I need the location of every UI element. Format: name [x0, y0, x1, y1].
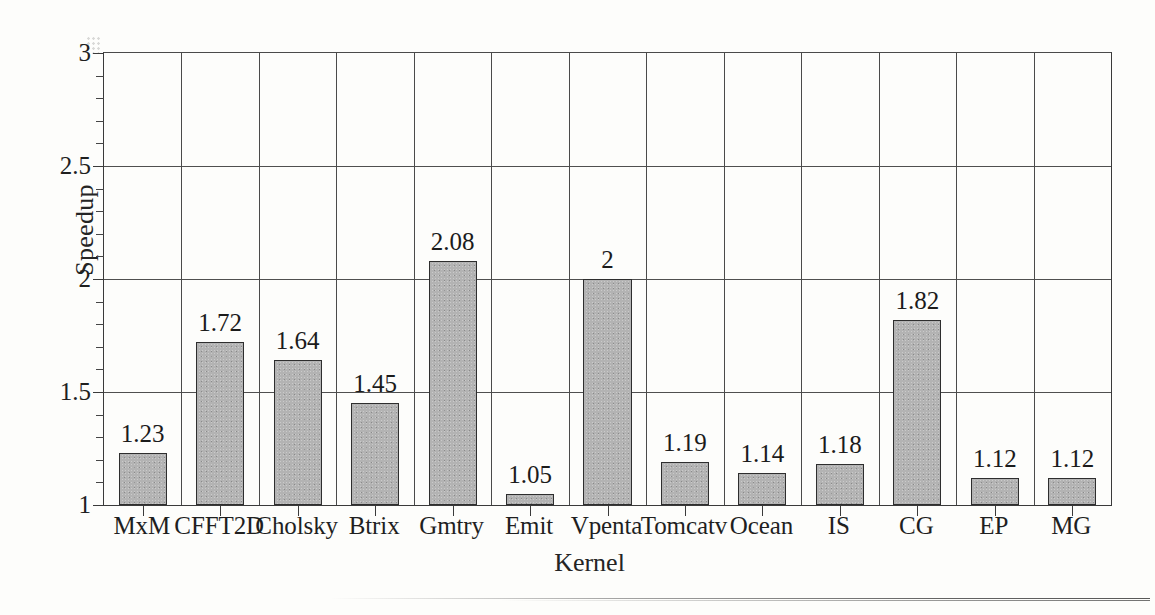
- bar: [661, 462, 709, 505]
- bar: [816, 464, 864, 505]
- y-axis-minor-tick: [96, 482, 104, 483]
- y-axis-minor-tick: [96, 324, 104, 325]
- bar-value-label: 1.64: [276, 327, 320, 355]
- y-axis-minor-tick: [96, 302, 104, 303]
- x-axis-tick-label: Ocean: [730, 512, 793, 540]
- y-axis-minor-tick: [96, 211, 104, 212]
- x-axis-title-text: Kernel: [554, 548, 625, 577]
- scan-artifact-line-secondary: [500, 600, 1150, 601]
- x-gridline: [491, 53, 492, 505]
- y-axis-minor-tick: [96, 98, 104, 99]
- y-axis-minor-tick: [96, 189, 104, 190]
- y-axis-minor-tick: [96, 415, 104, 416]
- x-axis-tick-label: Cholsky: [255, 512, 338, 540]
- bar: [351, 403, 399, 505]
- x-axis-tick-label: MG: [1051, 512, 1091, 540]
- y-axis-minor-tick: [96, 369, 104, 370]
- bar: [274, 360, 322, 505]
- bar-value-label: 1.14: [741, 440, 785, 468]
- x-axis-tick-label: Gmtry: [419, 512, 484, 540]
- plot-area: 11.522.531.231.721.641.452.081.0521.191.…: [103, 52, 1112, 506]
- y-axis-tick: [93, 279, 104, 280]
- y-axis-minor-tick: [96, 143, 104, 144]
- x-axis-tick-label: CFFT2D: [174, 512, 264, 540]
- y-axis-minor-tick: [96, 76, 104, 77]
- y-axis-tick-label: 1.5: [60, 378, 91, 406]
- bar-value-label: 1.12: [1050, 445, 1094, 473]
- y-gridline: [104, 166, 1111, 167]
- y-axis-tick-label: 2: [79, 265, 92, 293]
- y-axis-tick: [93, 53, 104, 54]
- x-gridline: [956, 53, 957, 505]
- y-axis-tick-label: 2.5: [60, 152, 91, 180]
- bar-value-label: 1.82: [895, 287, 939, 315]
- y-axis-tick-label: 1: [79, 491, 92, 519]
- x-gridline: [646, 53, 647, 505]
- y-axis-tick: [93, 166, 104, 167]
- bar-value-label: 1.05: [508, 461, 552, 489]
- bar-value-label: 1.45: [353, 370, 397, 398]
- x-gridline: [414, 53, 415, 505]
- y-axis-tick: [93, 392, 104, 393]
- x-gridline: [181, 53, 182, 505]
- bar: [506, 494, 554, 505]
- x-gridline: [1034, 53, 1035, 505]
- y-axis-tick-label: 3: [79, 39, 92, 67]
- bar: [196, 342, 244, 505]
- y-axis-minor-tick: [96, 234, 104, 235]
- x-gridline: [569, 53, 570, 505]
- x-axis-title: Kernel: [0, 548, 1155, 578]
- x-gridline: [259, 53, 260, 505]
- y-axis-minor-tick: [96, 437, 104, 438]
- x-gridline: [336, 53, 337, 505]
- bar: [893, 320, 941, 505]
- chart-figure: Speedup 11.522.531.231.721.641.452.081.0…: [0, 0, 1155, 615]
- x-gridline: [879, 53, 880, 505]
- x-axis-tick-label: Emit: [505, 512, 553, 540]
- bar-value-label: 1.23: [121, 420, 165, 448]
- x-axis-tick-label: CG: [899, 512, 934, 540]
- bar-value-label: 1.72: [198, 309, 242, 337]
- x-axis-tick-label: IS: [828, 512, 850, 540]
- scan-artifact-line: [330, 598, 1150, 599]
- x-gridline: [801, 53, 802, 505]
- x-gridline: [724, 53, 725, 505]
- y-axis-minor-tick: [96, 121, 104, 122]
- x-axis-tick-label: MxM: [113, 512, 170, 540]
- bar-value-label: 1.18: [818, 431, 862, 459]
- bar-value-label: 1.12: [973, 445, 1017, 473]
- bar-value-label: 2.08: [431, 228, 475, 256]
- y-axis-minor-tick: [96, 347, 104, 348]
- bar: [1048, 478, 1096, 505]
- bar: [583, 279, 631, 505]
- bar-value-label: 2: [601, 246, 614, 274]
- x-axis-tick-label: Tomcatv: [641, 512, 727, 540]
- x-axis-tick-label: Btrix: [349, 512, 400, 540]
- bar: [429, 261, 477, 505]
- bar: [119, 453, 167, 505]
- x-axis-tick-label: Vpenta: [571, 512, 643, 540]
- bar-value-label: 1.19: [663, 429, 707, 457]
- x-axis-tick-label: EP: [979, 512, 1008, 540]
- bar: [971, 478, 1019, 505]
- y-axis-tick: [93, 505, 104, 506]
- bar: [738, 473, 786, 505]
- y-axis-minor-tick: [96, 460, 104, 461]
- y-axis-minor-tick: [96, 256, 104, 257]
